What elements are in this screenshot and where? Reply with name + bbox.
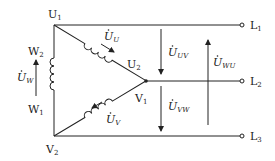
arrow-uu bbox=[101, 44, 114, 52]
terminal-L1 bbox=[240, 23, 244, 27]
label-v1: V1 bbox=[134, 92, 147, 106]
label-l2: L2 bbox=[250, 75, 262, 89]
svg-text:UWU: UWU bbox=[213, 56, 236, 70]
arrow-uv bbox=[92, 102, 102, 108]
label-w1: W1 bbox=[28, 103, 44, 117]
label-uv: UV bbox=[106, 112, 121, 127]
winding-u-coil bbox=[52, 25, 146, 84]
delta-connection-diagram: U1 U2 V1 V2 W2 W1 L1 L2 L3 UU UV UW UUV bbox=[0, 0, 275, 161]
junction-node bbox=[144, 79, 148, 83]
winding-v-coil bbox=[52, 78, 146, 136]
svg-text:UUV: UUV bbox=[168, 46, 189, 60]
terminal-L2 bbox=[240, 79, 244, 83]
svg-text:UU: UU bbox=[104, 30, 120, 44]
label-uw: UW bbox=[17, 70, 34, 85]
label-uwu: UWU bbox=[213, 55, 236, 70]
label-uuv: UUV bbox=[168, 45, 189, 60]
label-uu: UU bbox=[104, 29, 120, 44]
svg-text:UW: UW bbox=[17, 71, 34, 85]
label-w2: W2 bbox=[28, 45, 44, 59]
label-u1: U1 bbox=[48, 8, 62, 22]
label-uvw: UVW bbox=[168, 99, 190, 114]
circuit-svg: U1 U2 V1 V2 W2 W1 L1 L2 L3 UU UV UW UUV bbox=[0, 0, 275, 161]
terminal-L3 bbox=[240, 134, 244, 138]
svg-text:UVW: UVW bbox=[168, 100, 190, 114]
svg-text:UV: UV bbox=[106, 113, 121, 127]
label-u2: U2 bbox=[127, 58, 141, 72]
label-l1: L1 bbox=[250, 19, 262, 33]
winding-w-coil bbox=[50, 25, 54, 136]
label-l3: L3 bbox=[250, 130, 262, 144]
label-v2: V2 bbox=[45, 143, 58, 157]
